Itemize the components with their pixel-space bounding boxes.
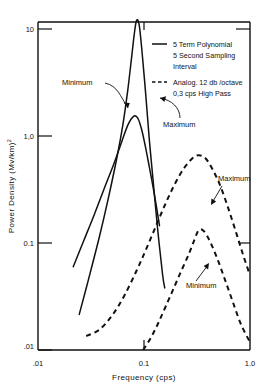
x-axis-tick-labels: .01 0.1 1.0	[33, 359, 255, 368]
svg-text:Power Density (Mv/km)2: Power Density (Mv/km)2	[6, 139, 16, 233]
annotation-label-dashed-minimum: Minimum	[186, 281, 216, 290]
y-axis-title-exponent: 2	[6, 139, 12, 142]
x-ticklabel-1-0: 1.0	[245, 359, 255, 368]
y-axis-tick-labels: 10 1,0 0.1 .01	[24, 25, 34, 351]
y-axis-title-group: Power Density (Mv/km)2	[6, 139, 16, 233]
annotation-label-solid-maximum: Maximum	[163, 120, 196, 129]
annotation-dashed-minimum: Minimum	[186, 263, 216, 290]
annotation-solid-minimum: Minimum	[62, 78, 130, 108]
y-ticklabel-10: 10	[26, 25, 34, 34]
annotation-solid-maximum: Maximum	[160, 96, 196, 129]
y-ticklabel-0-01: .01	[24, 342, 34, 351]
y-axis-title: Power Density (Mv/km)	[7, 142, 16, 233]
y-ticklabel-1: 1,0	[24, 132, 34, 141]
legend-entry-0-line-1: 5 Term Polynomial	[173, 40, 232, 49]
x-ticklabel-0-01: .01	[33, 359, 43, 368]
legend-entry-0-line-2: 5 Second Sampling	[173, 51, 235, 60]
legend-entry-1-line-2: 0,3 cps High Pass	[173, 89, 231, 98]
y-ticklabel-0-1: 0.1	[24, 239, 34, 248]
annotation-label-dashed-maximum: Maximum	[218, 174, 251, 183]
arrowhead-solid-minimum	[124, 103, 130, 108]
chart-legend: 5 Term Polynomial 5 Second Sampling Inte…	[152, 40, 243, 98]
curve-solid-maximum	[79, 20, 165, 315]
power-density-frequency-chart: 10 1,0 0.1 .01 .01 0.1 1.0 Frequency (cp…	[0, 0, 267, 385]
legend-entry-0-line-3: Interval	[173, 62, 197, 71]
leader-line-solid-minimum	[105, 83, 128, 108]
annotation-dashed-maximum: Maximum	[211, 174, 251, 205]
annotation-label-solid-minimum: Minimum	[62, 78, 92, 87]
arrowhead-solid-maximum	[160, 96, 166, 102]
legend-entry-1-line-1: Analog. 12 db /octave	[173, 78, 243, 87]
chart-curves	[73, 20, 250, 350]
x-axis-title: Frequency (cps)	[112, 373, 176, 382]
chart-svg: 10 1,0 0.1 .01 .01 0.1 1.0 Frequency (cp…	[0, 0, 267, 385]
arrowhead-dashed-minimum	[204, 263, 209, 269]
curve-solid-minimum	[73, 116, 159, 267]
x-ticklabel-0-1: 0.1	[139, 359, 149, 368]
leader-line-solid-maximum	[160, 98, 180, 118]
